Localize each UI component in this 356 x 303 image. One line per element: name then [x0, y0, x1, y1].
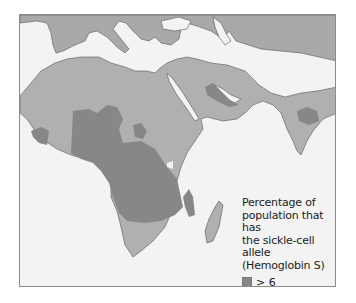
madagascar: [205, 201, 223, 243]
swatch-gt6: [242, 277, 252, 287]
legend-label: > 6: [256, 276, 276, 288]
legend-item-gt6: > 6: [242, 276, 336, 287]
legend-title-line: population that has: [242, 210, 336, 235]
map-frame: Percentage of population that has the si…: [19, 14, 336, 287]
region-gt6-east-coast: [183, 189, 195, 217]
legend-title: Percentage of population that has the si…: [242, 197, 336, 272]
legend-title-line: Percentage of: [242, 197, 336, 210]
legend-title-line: the sickle-cell allele: [242, 235, 336, 260]
legend: Percentage of population that has the si…: [242, 197, 336, 287]
region-gt6-west-africa: [31, 127, 49, 145]
legend-title-line: (Hemoglobin S): [242, 260, 336, 273]
